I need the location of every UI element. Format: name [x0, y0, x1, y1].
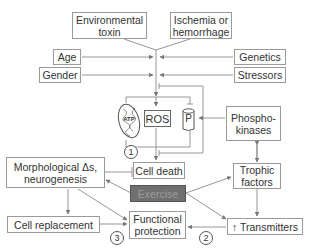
- environmental-toxin-node: Environmentaltoxin: [72, 12, 147, 39]
- stressors-node: Stressors: [234, 67, 286, 83]
- transmitters-node: ↑ Transmitters: [227, 218, 303, 235]
- node-label: neurogenesis: [14, 173, 97, 185]
- trophic-factors-node: Trophicfactors: [233, 163, 281, 189]
- pathway-2-badge: 2: [199, 231, 213, 245]
- node-label: Trophic: [240, 164, 275, 176]
- pathway-3-badge: 3: [110, 231, 124, 245]
- node-label: toxin: [76, 26, 143, 38]
- node-label: Phospho-: [231, 112, 276, 124]
- pathway-1-badge: 1: [124, 145, 138, 159]
- gender-node: Gender: [39, 67, 81, 83]
- ros-node: ROS: [144, 110, 171, 127]
- node-label: Morphological Δs,: [14, 161, 97, 173]
- age-node: Age: [53, 49, 81, 65]
- genetics-node: Genetics: [234, 49, 286, 65]
- node-label: Environmental: [76, 14, 143, 26]
- functional-protection-node: Functionalprotection: [129, 211, 186, 239]
- exercise-node: Exercise: [130, 185, 186, 202]
- phosphokinases-node: Phospho-kinases: [226, 106, 281, 141]
- morphological-node: Morphological Δs,neurogenesis: [6, 157, 105, 188]
- ischemia-node: Ischemia orhemorrhage: [170, 12, 232, 39]
- cell-death-node: Cell death: [133, 162, 185, 179]
- node-label: protection: [133, 225, 181, 237]
- node-label: hemorrhage: [173, 26, 230, 38]
- node-label: Functional: [133, 213, 181, 225]
- node-label: factors: [240, 176, 275, 188]
- atp-label: ATP: [120, 116, 138, 122]
- cell-replacement-node: Cell replacement: [7, 216, 100, 233]
- node-label: Ischemia or: [173, 14, 230, 26]
- node-label: kinases: [231, 124, 276, 136]
- p-label: P: [183, 113, 194, 124]
